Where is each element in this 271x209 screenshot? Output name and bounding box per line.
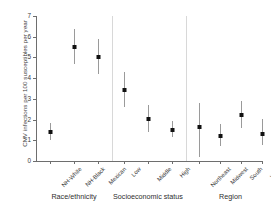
group-separator: [186, 16, 187, 161]
category-tick-label: Midwest: [229, 166, 249, 186]
category-tick-label: NH-Black: [84, 166, 106, 188]
y-tick-label: 4: [27, 75, 31, 81]
x-tick-mark: [241, 161, 242, 164]
y-axis-label: CMV infections per 100 susceptibles per …: [21, 4, 28, 164]
x-tick-mark: [50, 161, 51, 164]
category-tick-label: South: [249, 166, 264, 181]
y-tick-label: 3: [27, 96, 31, 102]
x-tick-mark: [220, 161, 221, 164]
x-tick-mark: [172, 161, 173, 164]
data-point: [261, 132, 265, 136]
group-separator: [112, 16, 113, 161]
data-point: [171, 128, 175, 132]
x-tick-mark: [262, 161, 263, 164]
y-tick-mark: [33, 78, 36, 79]
y-tick-label: 7: [27, 13, 31, 19]
category-tick-label: NH-White: [60, 166, 82, 188]
y-tick-label: 6: [27, 34, 31, 40]
x-axis-line: [36, 161, 262, 162]
category-tick-label: Low: [130, 166, 142, 178]
category-tick-label: West: [269, 166, 271, 180]
data-point: [97, 55, 101, 59]
y-tick-mark: [33, 16, 36, 17]
x-tick-mark: [199, 161, 200, 164]
y-tick-label: 2: [27, 116, 31, 122]
data-point: [49, 130, 53, 134]
group-label: Region: [219, 192, 242, 201]
y-tick-mark: [33, 57, 36, 58]
y-tick-mark: [33, 37, 36, 38]
category-tick-label: High: [179, 166, 192, 179]
y-tick-label: 1: [27, 137, 31, 143]
error-bar: [199, 103, 200, 157]
x-tick-mark: [98, 161, 99, 164]
cmv-infection-rate-chart: CMV infections per 100 susceptibles per …: [0, 0, 271, 209]
category-tick-label: Middle: [156, 166, 173, 183]
y-tick-label: 0: [27, 158, 31, 164]
category-tick-label: Mexican: [107, 166, 127, 186]
x-tick-mark: [74, 161, 75, 164]
y-tick-mark: [33, 120, 36, 121]
x-tick-mark: [124, 161, 125, 164]
group-label: Socioeconomic status: [113, 192, 183, 201]
data-point: [73, 45, 77, 49]
data-point: [219, 134, 223, 138]
y-tick-mark: [33, 99, 36, 100]
x-tick-mark: [148, 161, 149, 164]
y-tick-mark: [33, 161, 36, 162]
y-tick-mark: [33, 140, 36, 141]
plot-area: 01234567: [36, 16, 262, 161]
data-point: [240, 113, 244, 117]
y-tick-label: 5: [27, 54, 31, 60]
group-label: Race/ethnicity: [51, 192, 96, 201]
data-point: [147, 117, 151, 121]
y-axis-line: [36, 16, 37, 161]
data-point: [198, 125, 202, 129]
data-point: [123, 88, 127, 92]
category-tick-label: Northeast: [209, 166, 231, 188]
